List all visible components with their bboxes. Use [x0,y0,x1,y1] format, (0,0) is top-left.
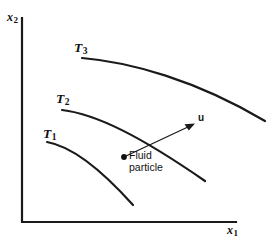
x-axis-label-subscript: 1 [233,228,238,238]
isotherm-label-t2-subscript: 2 [64,97,69,107]
isotherm-label-t3-subscript: 3 [82,46,87,56]
isotherm-label-t1: T1 [43,127,57,143]
isotherm-label-t1-base: T [43,126,51,141]
velocity-vector-label: u [198,113,204,123]
isotherm-label-t3: T3 [74,41,88,57]
isotherm-label-t2: T2 [56,92,70,108]
x-axis-label: x1 [227,224,238,238]
isotherm-diagram: x2 x1 T1 T2 T3 u Fluid particle [0,0,277,244]
isotherm-label-t1-subscript: 1 [51,132,56,142]
isotherm-curve-t3 [82,58,265,121]
isotherm-label-t3-base: T [74,40,82,55]
velocity-vector-arrowhead [185,124,196,131]
fluid-particle-dot [121,154,127,160]
isotherm-label-t2-base: T [56,91,64,106]
diagram-canvas [0,0,277,244]
fluid-particle-caption: Fluid particle [129,150,163,172]
y-axis-label: x2 [7,11,18,25]
fluid-particle-caption-line-1: Fluid [129,149,152,161]
isotherm-curve-t1 [47,142,133,205]
fluid-particle-caption-line-2: particle [129,162,163,173]
y-axis-label-subscript: 2 [13,15,18,25]
